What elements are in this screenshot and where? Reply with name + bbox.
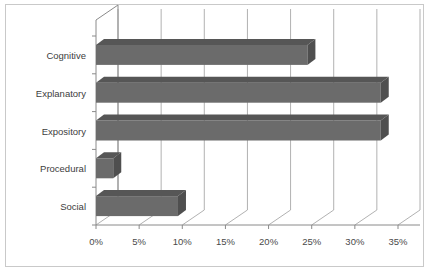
bar-face-social — [96, 196, 178, 216]
bar-explanatory — [96, 77, 389, 103]
category-label-social: Social — [60, 201, 86, 212]
x-tick-label-3: 15% — [216, 236, 236, 247]
y-axis-ticks — [92, 36, 96, 225]
category-label-expository: Expository — [42, 126, 87, 137]
x-axis-ticks: 0%5%10%15%20%25%30%35% — [89, 225, 408, 247]
category-label-procedural: Procedural — [40, 163, 86, 174]
grid-depth-line-4 — [269, 210, 291, 225]
bar-top-social — [96, 190, 186, 196]
x-tick-label-0: 0% — [89, 236, 103, 247]
grid-depth-line-6 — [355, 210, 377, 225]
bar-face-expository — [96, 121, 381, 141]
chart-figure: 0%5%10%15%20%25%30%35%CognitiveExplanato… — [0, 0, 431, 274]
bars-group: CognitiveExplanatoryExpositoryProcedural… — [36, 39, 389, 216]
grid-depth-line-2 — [182, 210, 204, 225]
grid-depth-line-7 — [398, 210, 420, 225]
bar-cognitive — [96, 39, 315, 65]
x-tick-label-7: 35% — [388, 236, 408, 247]
x-tick-label-1: 5% — [132, 236, 146, 247]
x-tick-label-4: 20% — [259, 236, 279, 247]
bar-chart-svg: 0%5%10%15%20%25%30%35%CognitiveExplanato… — [0, 0, 431, 274]
bar-face-explanatory — [96, 83, 381, 103]
x-tick-label-2: 10% — [173, 236, 193, 247]
y-axis-depth-line — [96, 5, 118, 20]
bar-top-cognitive — [96, 39, 315, 45]
bar-social — [96, 190, 186, 216]
category-label-cognitive: Cognitive — [46, 50, 86, 61]
bar-face-cognitive — [96, 45, 307, 65]
bar-face-procedural — [96, 158, 113, 178]
category-label-explanatory: Explanatory — [36, 88, 86, 99]
bar-top-expository — [96, 115, 389, 121]
bar-expository — [96, 115, 389, 141]
plot-area: 0%5%10%15%20%25%30%35%CognitiveExplanato… — [0, 0, 431, 274]
x-tick-label-5: 25% — [302, 236, 322, 247]
bar-procedural — [96, 152, 121, 178]
grid-depth-line-3 — [225, 210, 247, 225]
x-tick-label-6: 30% — [345, 236, 365, 247]
bar-top-explanatory — [96, 77, 389, 83]
grid-depth-line-5 — [312, 210, 334, 225]
